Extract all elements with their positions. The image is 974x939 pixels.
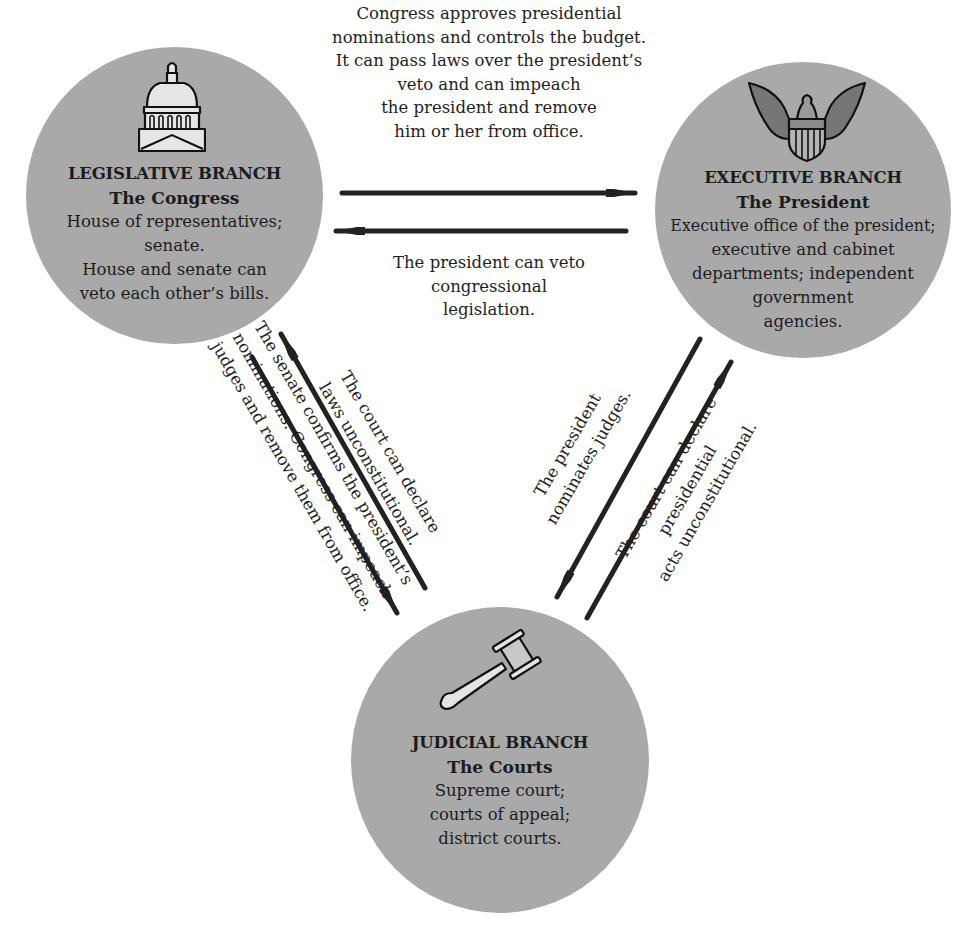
caption-line: congressional	[330, 275, 648, 299]
caption-legislative-to-executive: Congress approves presidential nominatio…	[330, 2, 648, 143]
caption-line: The president can veto	[330, 251, 648, 275]
caption-line: It can pass laws over the president’s	[330, 49, 648, 73]
caption-line: veto and can impeach	[330, 73, 648, 97]
caption-line: him or her from office.	[330, 120, 648, 144]
caption-line: legislation.	[330, 298, 648, 322]
caption-line: Congress approves presidential	[330, 2, 648, 26]
caption-line: nominations and controls the budget.	[330, 26, 648, 50]
caption-executive-to-legislative: The president can veto congressional leg…	[330, 251, 648, 322]
caption-line: the president and remove	[330, 96, 648, 120]
